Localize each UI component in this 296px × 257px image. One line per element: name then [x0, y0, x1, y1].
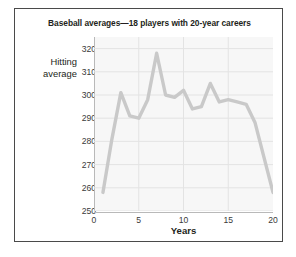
chart-title: Baseball averages—18 players with 20-yea…	[15, 18, 284, 28]
y-axis-tick-280: 280	[55, 136, 96, 146]
data-series-line	[103, 53, 273, 192]
plot-area-wrapper	[94, 37, 273, 211]
y-axis-tick-260: 260	[55, 183, 96, 193]
chart-figure: Baseball averages—18 players with 20-yea…	[14, 8, 283, 242]
x-axis-tick-20: 20	[268, 215, 278, 225]
y-axis-tick-290: 290	[55, 113, 96, 123]
x-axis-tick-5: 5	[136, 215, 141, 225]
y-axis-tick-270: 270	[55, 160, 96, 170]
x-axis-tick-10: 10	[179, 215, 189, 225]
x-axis-tick-0: 0	[92, 215, 97, 225]
y-axis-tick-320: 320	[55, 44, 96, 54]
y-axis-title-line-2: average	[19, 68, 77, 80]
y-axis-title: Hitting average	[19, 56, 77, 81]
x-axis-title: Years	[94, 225, 273, 236]
y-axis-tick-300: 300	[55, 90, 96, 100]
y-axis-tick-250: 250	[55, 206, 96, 216]
vertical-gridlines	[139, 37, 229, 211]
y-axis-title-line-1: Hitting	[19, 56, 77, 68]
x-axis-tick-15: 15	[223, 215, 233, 225]
line-chart-svg	[94, 37, 273, 211]
